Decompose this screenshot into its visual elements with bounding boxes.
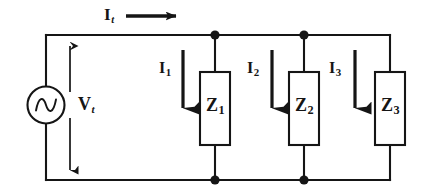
label-branch3-current-sub: 3: [335, 66, 341, 78]
node-dot-bottom-z1: [210, 175, 219, 184]
label-total-voltage-sub: t: [91, 103, 95, 115]
label-impedance2: Z2: [295, 96, 314, 117]
label-total-current-base: I: [104, 5, 111, 24]
label-impedance2-base: Z: [295, 95, 307, 115]
label-impedance2-sub: 2: [307, 103, 314, 117]
label-branch1-current: I1: [159, 60, 171, 78]
node-dot-top-z2: [299, 30, 308, 39]
ac-source-symbol: [28, 87, 65, 124]
node-dot-top-z1: [210, 30, 219, 39]
node-dot-bottom-z2: [299, 175, 308, 184]
label-impedance1-base: Z: [206, 95, 218, 115]
label-impedance3-base: Z: [381, 95, 393, 115]
label-impedance1: Z1: [206, 96, 225, 117]
label-total-voltage-base: V: [78, 94, 91, 114]
label-impedance1-sub: 1: [218, 103, 225, 117]
label-total-current: It: [104, 6, 114, 25]
label-impedance3: Z3: [381, 96, 400, 117]
label-branch3-current: I3: [329, 60, 341, 78]
label-branch2-current-sub: 2: [253, 66, 259, 78]
label-total-voltage: Vt: [78, 95, 95, 115]
label-branch2-current: I2: [247, 60, 259, 78]
label-total-current-sub: t: [111, 14, 114, 25]
label-impedance3-sub: 3: [393, 103, 400, 117]
label-branch1-current-sub: 1: [165, 66, 171, 78]
circuit-diagram: It Vt I1 I2 I3 Z1 Z2 Z3: [0, 0, 421, 193]
